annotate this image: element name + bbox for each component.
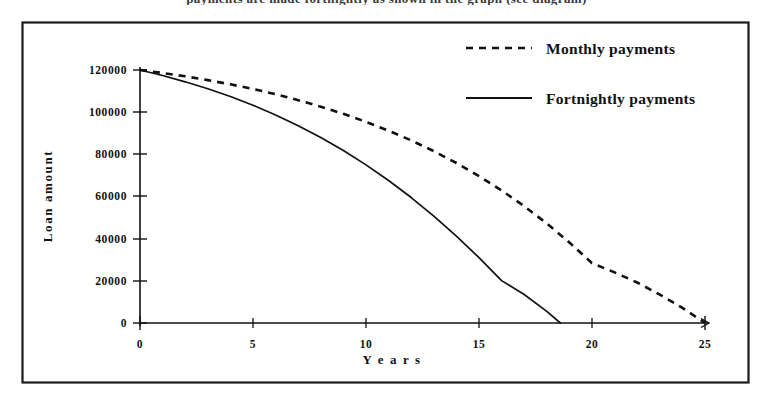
x-tick-label-15: 15	[473, 338, 486, 350]
x-tick-label-0: 0	[137, 338, 143, 350]
x-axis-title: Y e a r s	[362, 352, 421, 367]
y-tick-label-100000: 100000	[89, 106, 127, 118]
y-tick-label-60000: 60000	[95, 190, 127, 202]
clipped-caption-text: payments are made fortnightly as shown i…	[0, 0, 773, 5]
x-tick-label-5: 5	[250, 338, 256, 350]
y-tick-label-40000: 40000	[95, 233, 127, 245]
x-tick-label-10: 10	[360, 338, 373, 350]
x-tick-label-20: 20	[586, 338, 599, 350]
y-tick-label-0: 0	[121, 317, 127, 329]
loan-amortisation-chart: 120000 100000 80000 60000 40000 20000 0 …	[0, 0, 773, 406]
legend-label-monthly: Monthly payments	[546, 40, 675, 57]
chart-figure: payments are made fortnightly as shown i…	[0, 0, 773, 406]
y-tick-label-80000: 80000	[95, 148, 127, 160]
y-tick-label-120000: 120000	[89, 64, 127, 76]
x-tick-label-25: 25	[699, 338, 712, 350]
legend-label-fortnightly: Fortnightly payments	[546, 90, 695, 107]
y-axis-title: Loan amount	[40, 150, 55, 242]
y-tick-label-20000: 20000	[95, 275, 127, 287]
chart-background	[0, 0, 773, 406]
